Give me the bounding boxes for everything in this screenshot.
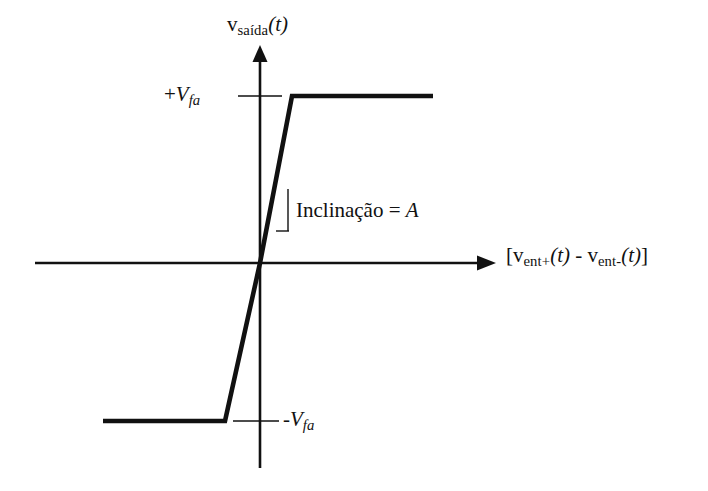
slope-annotation-text: Inclinação =	[296, 198, 406, 222]
positive-saturation-symbol: V	[176, 82, 189, 106]
positive-saturation-sign: +	[164, 82, 176, 106]
x-axis-label-subscript-1: ent+	[524, 253, 551, 269]
negative-saturation-symbol: V	[290, 407, 303, 431]
x-axis-label-argument-1: (t)	[550, 243, 570, 267]
negative-saturation-label: -Vfa	[283, 409, 314, 433]
x-axis-label-close: ]	[641, 243, 648, 267]
y-axis-arrowhead	[253, 45, 268, 62]
x-axis-label-argument-2: (t)	[621, 243, 641, 267]
positive-saturation-label: +Vfa	[164, 84, 200, 108]
transfer-characteristic-curve	[103, 96, 433, 421]
figure-canvas: vsaída(t) +Vfa -Vfa Inclinação = A [vent…	[0, 0, 708, 491]
negative-saturation-sign: -	[283, 407, 290, 431]
y-axis-label: vsaída(t)	[227, 14, 288, 38]
x-axis-label-subscript-2: ent-	[598, 253, 621, 269]
y-axis-label-main: v	[227, 12, 238, 36]
x-axis-label-open: [v	[506, 243, 524, 267]
slope-annotation-symbol: A	[406, 198, 419, 222]
slope-indicator-icon	[276, 189, 289, 231]
x-axis-label-minus: -	[570, 243, 588, 267]
negative-saturation-subscript: fa	[303, 417, 315, 433]
y-axis-label-argument: (t)	[268, 12, 288, 36]
x-axis-label: [vent+(t) - vent-(t)]	[506, 245, 648, 269]
slope-annotation: Inclinação = A	[296, 200, 419, 221]
x-axis-arrowhead	[477, 256, 496, 271]
x-axis	[35, 256, 496, 271]
y-axis-label-subscript: saída	[238, 22, 269, 38]
positive-saturation-subscript: fa	[189, 92, 201, 108]
x-axis-label-v2: v	[587, 243, 598, 267]
